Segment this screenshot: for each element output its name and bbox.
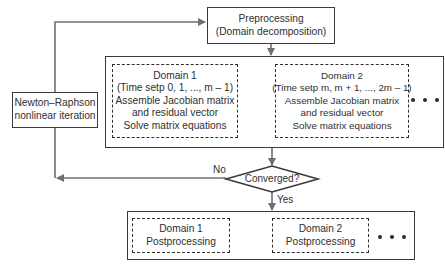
ellipsis-dot xyxy=(411,98,415,102)
more-postprocessing-ellipsis xyxy=(378,235,406,239)
domain1-solve: Solve matrix equations xyxy=(123,120,226,133)
ellipsis-dot xyxy=(435,98,439,102)
newton-raphson-line1: Newton–Raphson xyxy=(15,97,96,110)
preprocessing-title: Preprocessing xyxy=(238,13,303,26)
domain1-solve-text: Domain 1 (Time setp 0, 1, ..., m – 1) As… xyxy=(112,64,238,138)
newton-raphson-line2: nonlinear iteration xyxy=(15,110,96,123)
converged-text: Converged? xyxy=(245,173,299,186)
domain1-postprocessing-text: Domain 1 Postprocessing xyxy=(132,218,230,253)
ellipsis-dot xyxy=(402,235,406,239)
post1-subtitle: Postprocessing xyxy=(146,236,216,249)
domain2-postprocessing-text: Domain 2 Postprocessing xyxy=(272,218,369,253)
domain2-title: Domain 2 xyxy=(321,70,363,83)
post2-subtitle: Postprocessing xyxy=(286,236,356,249)
domain1-assemble: Assemble Jacobian matrix xyxy=(116,95,235,108)
ellipsis-dot xyxy=(390,235,394,239)
post2-title: Domain 2 xyxy=(299,223,343,236)
domain1-timesteps: (Time setp 0, 1, ..., m – 1) xyxy=(117,82,233,95)
converged-label: Converged? xyxy=(226,166,318,192)
preprocessing-subtitle: (Domain decomposition) xyxy=(216,26,326,39)
yes-label: Yes xyxy=(277,194,293,205)
preprocessing-text: Preprocessing (Domain decomposition) xyxy=(207,7,335,44)
domain2-residual: and residual vector xyxy=(301,107,384,120)
domain2-solve-text: Domain 2 (Time setp m, m + 1, ..., 2m – … xyxy=(275,64,409,138)
ellipsis-dot xyxy=(378,235,382,239)
domain1-title: Domain 1 xyxy=(153,70,197,83)
domain1-residual: and residual vector xyxy=(132,107,218,120)
domain2-assemble: Assemble Jacobian matrix xyxy=(285,95,399,108)
ellipsis-dot xyxy=(423,98,427,102)
newton-raphson-text: Newton–Raphson nonlinear iteration xyxy=(12,92,98,128)
domain2-solve: Solve matrix equations xyxy=(292,120,391,133)
more-domains-ellipsis xyxy=(411,98,439,102)
no-label: No xyxy=(213,164,226,175)
domain2-timesteps: (Time setp m, m + 1, ..., 2m – 1) xyxy=(272,82,411,95)
post1-title: Domain 1 xyxy=(159,223,203,236)
